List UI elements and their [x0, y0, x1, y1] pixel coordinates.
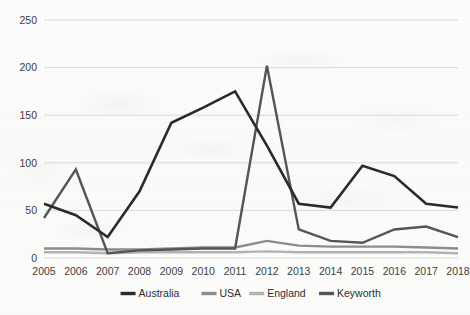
x-axis-tick-label: 2017	[414, 265, 438, 277]
chart-canvas: 050100150200250 200520062007200820092010…	[0, 0, 470, 315]
series-line-australia	[44, 91, 458, 237]
x-axis-tick-label: 2006	[64, 265, 88, 277]
x-axis-tick-label: 2005	[32, 265, 56, 277]
x-axis-tick-label: 2011	[224, 265, 247, 277]
x-axis-tick-label: 2009	[160, 265, 184, 277]
x-axis-tick-label: 2015	[351, 265, 375, 277]
legend-label-keyworth: Keyworth	[337, 287, 381, 299]
legend-label-england: England	[267, 287, 306, 299]
x-axis-tick-label: 2008	[128, 265, 152, 277]
series-line-keyworth	[44, 66, 458, 254]
x-axis-tick-label: 2016	[383, 265, 407, 277]
line-chart: 050100150200250 200520062007200820092010…	[0, 0, 470, 315]
x-axis-tick-label: 2012	[255, 265, 279, 277]
y-axis-tick-label: 250	[19, 14, 37, 26]
x-axis-tick-labels: 2005200620072008200920102011201220132014…	[32, 265, 470, 277]
x-axis-tick-label: 2010	[192, 265, 216, 277]
y-axis-tick-label: 150	[19, 109, 37, 121]
y-axis-tick-label: 0	[31, 252, 37, 264]
y-axis-tick-label: 50	[25, 204, 37, 216]
x-axis-tick-label: 2018	[446, 265, 470, 277]
x-axis-tick-label: 2014	[319, 265, 343, 277]
x-axis-tick-label: 2007	[96, 265, 120, 277]
y-axis-tick-labels: 050100150200250	[19, 14, 37, 264]
series-lines-group	[44, 66, 458, 254]
gridlines-group	[44, 20, 458, 258]
legend-label-usa: USA	[220, 287, 242, 299]
y-axis-tick-label: 100	[19, 157, 37, 169]
y-axis-tick-label: 200	[19, 61, 37, 73]
x-axis-tick-label: 2013	[287, 265, 311, 277]
legend-label-australia: Australia	[139, 287, 180, 299]
chart-legend: AustraliaUSAEnglandKeyworth	[121, 287, 381, 299]
